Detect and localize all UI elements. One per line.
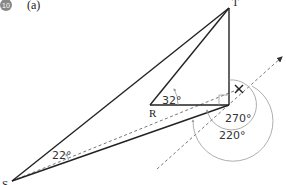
bearing-diagram: 10 (a) T R S 22° 32° 270° 220°	[0, 0, 286, 185]
question-header: 10 (a)	[0, 0, 40, 12]
point-label-r: R	[149, 107, 157, 119]
line-s-corner	[12, 105, 229, 181]
x-marker	[235, 85, 243, 93]
question-number: 10	[2, 2, 10, 9]
dashed-line-s-to-x	[12, 89, 239, 181]
line-s-t	[12, 8, 229, 181]
right-angle-marker	[219, 95, 229, 105]
angle-s-label: 22°	[52, 149, 72, 162]
point-label-s: S	[2, 178, 8, 185]
line-r-t	[150, 8, 229, 105]
angle-270-label: 270°	[225, 112, 252, 125]
point-label-t: T	[232, 0, 239, 8]
part-label: (a)	[27, 0, 40, 12]
angle-r-label: 32°	[162, 94, 182, 107]
angle-220-label: 220°	[219, 129, 246, 142]
